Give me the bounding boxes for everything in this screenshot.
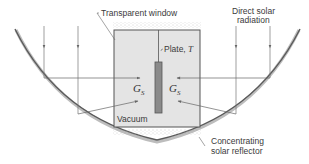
label-irradiation-left: GS bbox=[133, 82, 144, 97]
window-glazing-top bbox=[113, 22, 201, 28]
gs-left-symbol: G bbox=[133, 82, 141, 94]
label-plate: Plate, T bbox=[164, 44, 193, 54]
plate-temperature-symbol: T bbox=[188, 44, 193, 54]
window-glazing-bottom bbox=[113, 129, 201, 135]
gs-right-subscript: S bbox=[177, 89, 181, 97]
reflector-leader bbox=[199, 137, 205, 146]
gs-right-symbol: G bbox=[169, 82, 177, 94]
absorber-plate bbox=[155, 62, 162, 113]
label-reflector-line2: solar reflector bbox=[211, 146, 263, 156]
gs-left-subscript: S bbox=[141, 89, 145, 97]
label-transparent-window: Transparent window bbox=[101, 8, 177, 18]
label-reflector-line1: Concentrating bbox=[211, 136, 264, 146]
label-irradiation-right: GS bbox=[169, 82, 180, 97]
label-vacuum: Vacuum bbox=[117, 114, 148, 124]
plate-label-text: Plate, bbox=[164, 44, 188, 54]
label-direct-solar-radiation-line2: radiation bbox=[237, 15, 270, 25]
